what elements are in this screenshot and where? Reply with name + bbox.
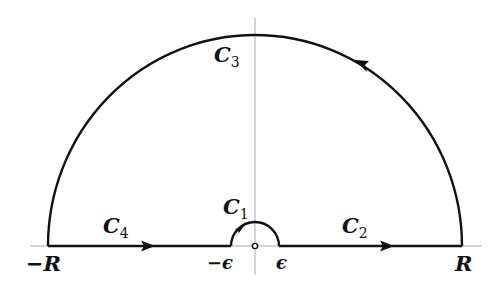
label-neg-epsilon: −ϵ: [207, 252, 233, 273]
label-pos-r: R: [454, 251, 472, 276]
contour-diagram: C3 C1 C4 C2 −R R −ϵ ϵ: [0, 0, 501, 290]
label-c2: C2: [342, 213, 368, 241]
origin-marker: [252, 243, 257, 248]
label-neg-r: −R: [26, 251, 61, 276]
label-pos-epsilon: ϵ: [276, 252, 287, 273]
label-c4: C4: [103, 213, 129, 241]
label-c3: C3: [214, 42, 240, 70]
label-c1: C1: [223, 194, 249, 222]
arrow-c3-icon: [355, 60, 369, 72]
